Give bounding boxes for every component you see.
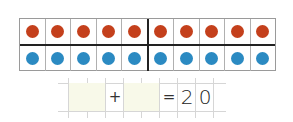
red-dot-icon: [128, 25, 141, 38]
plus-sign: +: [106, 83, 124, 111]
frame-cell: [46, 46, 72, 72]
frame-cell: [97, 19, 123, 45]
grid-line: [58, 111, 226, 112]
blue-dot-icon: [231, 52, 244, 65]
red-dot-icon: [77, 25, 90, 38]
frame-cell: [149, 46, 175, 72]
frame-cell: [251, 46, 276, 72]
frame-cell: [251, 19, 276, 45]
red-dot-icon: [231, 25, 244, 38]
red-dot-icon: [26, 25, 39, 38]
blue-dot-icon: [128, 52, 141, 65]
blue-dot-icon: [154, 52, 167, 65]
red-dot-icon: [256, 25, 269, 38]
red-dot-row: [20, 19, 275, 45]
frame-cell: [122, 19, 149, 45]
addend1-answer-box[interactable]: [69, 83, 105, 111]
blue-dot-icon: [51, 52, 64, 65]
blue-dot-icon: [102, 52, 115, 65]
frame-cell: [97, 46, 123, 72]
double-ten-frame: [19, 18, 276, 71]
red-dot-icon: [205, 25, 218, 38]
frame-cell: [20, 19, 46, 45]
frame-cell: [71, 46, 97, 72]
frame-cell: [174, 19, 200, 45]
red-dot-icon: [180, 25, 193, 38]
frame-cell: [46, 19, 72, 45]
blue-dot-icon: [256, 52, 269, 65]
frame-cell: [71, 19, 97, 45]
frame-cell: [200, 46, 226, 72]
blue-dot-icon: [205, 52, 218, 65]
red-dot-icon: [154, 25, 167, 38]
frame-cell: [225, 19, 251, 45]
frame-cell: [20, 46, 46, 72]
sum-tens-digit: 2: [178, 83, 196, 111]
blue-dot-icon: [180, 52, 193, 65]
addend2-answer-box[interactable]: [124, 83, 159, 111]
equation-grid: + = 2 0: [58, 78, 226, 118]
frame-cell: [122, 46, 149, 72]
red-dot-icon: [102, 25, 115, 38]
frame-cell: [200, 19, 226, 45]
frame-cell: [149, 19, 175, 45]
blue-dot-row: [20, 46, 275, 72]
red-dot-icon: [51, 25, 64, 38]
frame-cell: [225, 46, 251, 72]
sum-ones-digit: 0: [196, 83, 214, 111]
frame-cell: [174, 46, 200, 72]
blue-dot-icon: [26, 52, 39, 65]
blue-dot-icon: [77, 52, 90, 65]
equals-sign: =: [160, 83, 178, 111]
